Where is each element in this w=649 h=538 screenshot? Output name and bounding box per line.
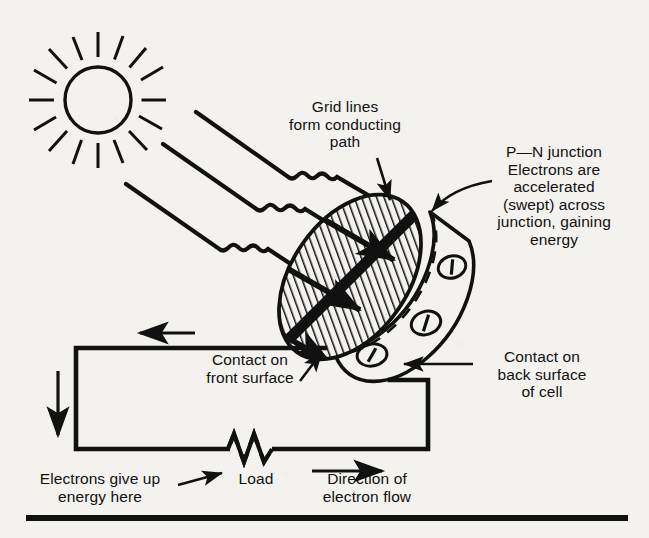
sun-icon (29, 32, 166, 168)
diagram-svg (0, 0, 649, 538)
figure-canvas: Grid lines form conducting path P—N junc… (0, 0, 649, 538)
label-contact-back: Contact on back surface of cell (472, 348, 612, 401)
bottom-rule (26, 515, 628, 521)
label-pn-junction: P—N junction Electrons are accelerated (… (468, 143, 640, 248)
label-contact-front: Contact on front surface (185, 351, 315, 386)
label-grid-lines: Grid lines form conducting path (250, 98, 440, 151)
pointer-load (178, 473, 222, 485)
label-electrons-give-up: Electrons give up energy here (20, 470, 180, 505)
label-direction-flow: Direction of electron flow (292, 470, 442, 505)
label-load: Load (228, 470, 284, 488)
